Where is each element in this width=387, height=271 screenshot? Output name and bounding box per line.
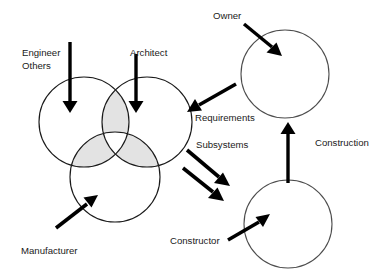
design-team-venn	[39, 77, 192, 222]
owner-circle	[241, 30, 329, 118]
label-requirements: Requirements	[195, 112, 255, 123]
label-owner: Owner	[213, 10, 242, 21]
label-subsystems: Subsystems	[196, 139, 248, 150]
construction-arrow	[281, 122, 296, 183]
label-constructor: Constructor	[170, 235, 220, 246]
architect-arrow	[129, 54, 144, 113]
roles-diagram: Engineer Others Architect Manufacturer O…	[0, 0, 387, 271]
subsystems-arrow-upper	[187, 150, 230, 186]
manufacturer-arrow	[56, 195, 98, 228]
label-engineer: Engineer	[22, 47, 61, 58]
subsystems-arrow-lower	[183, 168, 224, 201]
label-manufacturer: Manufacturer	[21, 245, 78, 256]
label-architect: Architect	[130, 47, 168, 58]
diagram-canvas: Engineer Others Architect Manufacturer O…	[0, 0, 387, 271]
owner-arrow	[244, 24, 282, 56]
constructor-arrow	[228, 214, 270, 240]
label-construction: Construction	[315, 137, 369, 148]
label-others: Others	[22, 60, 51, 71]
requirements-arrow	[187, 84, 236, 112]
